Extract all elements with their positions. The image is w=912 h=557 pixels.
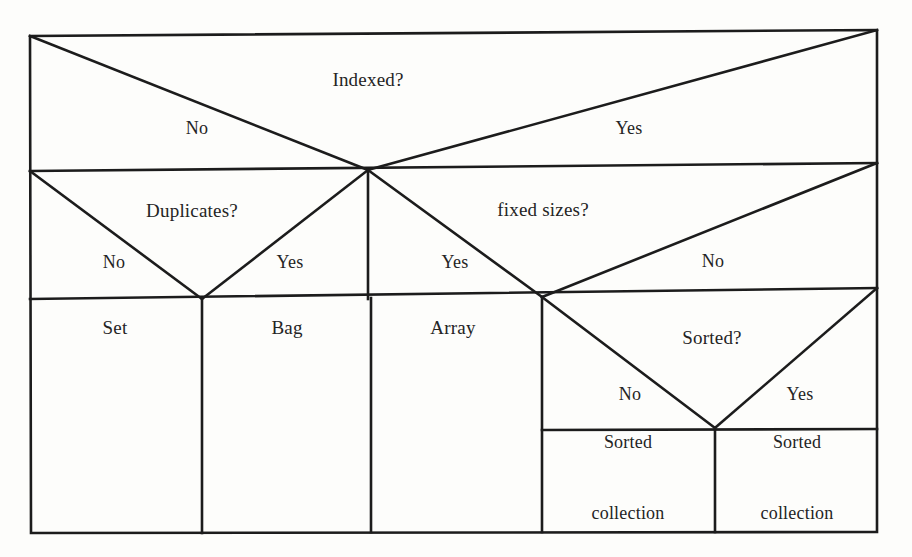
edge-indexed-yes xyxy=(368,30,877,170)
decision-tree-diagram: Indexed? Duplicates? fixed sizes? Sorted… xyxy=(0,0,912,557)
row2-divider xyxy=(30,288,877,299)
edge-fixed-no xyxy=(542,163,877,297)
edge-indexed-no xyxy=(30,36,368,170)
edge-duplicates-left xyxy=(30,171,202,299)
edge-duplicates-right xyxy=(202,170,368,299)
edge-fixed-yes xyxy=(368,170,542,297)
row1-divider xyxy=(30,163,877,171)
edge-sorted-yes xyxy=(715,288,877,428)
edge-sorted-no xyxy=(542,297,715,428)
outer-frame xyxy=(30,30,877,533)
sorted-row-divider xyxy=(542,429,877,430)
diagram-line-art xyxy=(0,0,912,557)
